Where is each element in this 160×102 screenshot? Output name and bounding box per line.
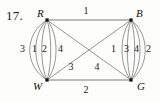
edge-label-right-bundle-2: 2 xyxy=(144,44,153,54)
vertex-dot-R xyxy=(45,18,48,21)
edge-label-R-G-diagonal: 3 xyxy=(66,62,76,72)
edge-label-right-bundle-1: 1 xyxy=(109,44,118,54)
edge-label-left-bundle-1: 1 xyxy=(30,44,39,54)
vertex-label-B: B xyxy=(136,8,143,19)
edge-label-right-bundle-3: 3 xyxy=(122,44,131,54)
edge-label-right-bundle-4: 4 xyxy=(132,44,141,54)
vertex-dot-B xyxy=(129,18,132,21)
edge-label-left-bundle-4: 4 xyxy=(56,44,65,54)
vertex-label-R: R xyxy=(37,8,44,19)
edge-label-left-bundle-3: 3 xyxy=(18,44,27,54)
edge-label-W-G: 2 xyxy=(81,85,91,95)
edge-label-left-bundle-2: 2 xyxy=(40,44,49,54)
vertex-label-G: G xyxy=(137,81,145,92)
vertex-dot-G xyxy=(129,78,132,81)
edge-label-R-B: 1 xyxy=(81,6,91,16)
vertex-label-W: W xyxy=(33,81,42,92)
edge-label-B-W-diagonal: 4 xyxy=(92,62,102,72)
vertex-dot-W xyxy=(45,78,48,81)
figure-container: 17. R B xyxy=(0,0,160,102)
